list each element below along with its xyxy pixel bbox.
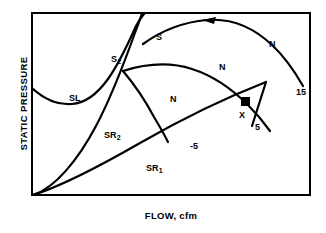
fan-system-curve-figure: SL S2 S SR2 SR1 N N N -5 X 5 15 STATIC P… (0, 0, 326, 233)
label-fifteen: 15 (296, 88, 306, 97)
curve-sr2 (33, 13, 142, 195)
y-axis-label: STATIC PRESSURE (18, 44, 29, 164)
label-sr2: SR2 (104, 131, 120, 140)
label-sr2-base: SR (104, 130, 117, 140)
curve-n-upper (143, 20, 303, 86)
label-s2-sub: 2 (117, 58, 121, 65)
label-s: S (156, 33, 162, 42)
marker-x-point (241, 97, 250, 106)
label-x-point: X (239, 111, 245, 120)
label-sl: SL (69, 94, 81, 103)
tick-line-x (252, 82, 266, 126)
label-sr2-sub: 2 (117, 134, 121, 141)
label-n-upper: N (269, 40, 276, 49)
curve-n-lower (123, 71, 168, 142)
label-sr1-sub: 1 (159, 167, 163, 174)
label-five: 5 (255, 123, 260, 132)
label-s2: S2 (111, 55, 121, 64)
label-minus-five: -5 (190, 142, 198, 151)
plot-canvas (0, 0, 326, 233)
arrowhead-n-upper (202, 17, 216, 24)
label-n-lower: N (170, 95, 177, 104)
label-n-middle: N (219, 63, 226, 72)
label-sr1: SR1 (146, 164, 162, 173)
curve-sl (32, 13, 145, 104)
x-axis-label: FLOW, cfm (32, 210, 310, 221)
label-sr1-base: SR (146, 163, 159, 173)
curve-sr1 (33, 82, 266, 195)
